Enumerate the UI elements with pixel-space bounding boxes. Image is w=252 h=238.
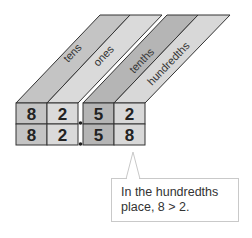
cell-r1-tens: 8	[27, 105, 36, 124]
callout-line-1: In the hundredths	[121, 185, 238, 200]
cell-r2-hundredths: 8	[125, 126, 134, 145]
cell-r1-tenths: 5	[94, 105, 103, 124]
callout-pointer	[126, 152, 140, 179]
cell-r2-tens: 8	[27, 126, 36, 145]
cell-r2-ones: 2	[58, 126, 67, 145]
cell-r1-hundredths: 2	[125, 105, 134, 124]
callout-box: In the hundredths place, 8 > 2.	[111, 178, 239, 222]
cell-r2-tenths: 5	[94, 126, 103, 145]
callout-line-2: place, 8 > 2.	[121, 200, 238, 215]
cell-r1-ones: 2	[58, 105, 67, 124]
decimal-point-r2	[79, 142, 83, 146]
decimal-point-r1	[79, 121, 83, 125]
